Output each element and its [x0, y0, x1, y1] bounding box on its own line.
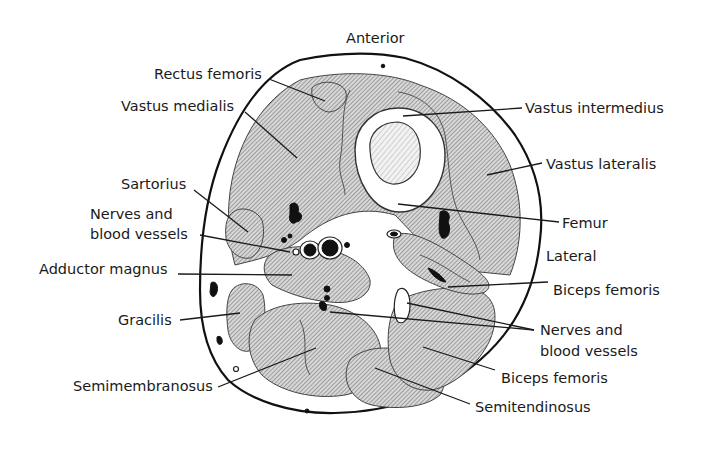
label-rectus-femoris: Rectus femoris: [154, 66, 262, 82]
label-femur: Femur: [562, 215, 608, 231]
label-nerves-vessels-right-line2: blood vessels: [540, 343, 638, 359]
saphenous-vein-icon: [210, 282, 218, 296]
label-gracilis: Gracilis: [118, 312, 172, 328]
sartorius-region: [226, 209, 264, 258]
label-sartorius: Sartorius: [121, 176, 186, 192]
femoral-artery-icon: [322, 240, 338, 256]
perforating-vessel-icon: [391, 232, 398, 236]
label-biceps-femoris-upper: Biceps femoris: [553, 282, 660, 298]
small-vessel-icon: [293, 249, 299, 255]
label-nerves-vessels-left-line2: blood vessels: [90, 226, 188, 242]
label-vastus-intermedius: Vastus intermedius: [525, 100, 664, 116]
label-semimembranosus: Semimembranosus: [73, 378, 213, 394]
label-nerves-vessels-right-line1: Nerves and: [540, 322, 623, 338]
small-vessel-icon: [288, 234, 292, 238]
thigh-cross-section-diagram: Anterior Lateral Rectus femoris Vastus m…: [0, 0, 701, 454]
label-vastus-lateralis: Vastus lateralis: [546, 156, 656, 172]
posterior-vessel-icon: [325, 296, 330, 301]
label-vastus-medialis: Vastus medialis: [121, 98, 234, 114]
small-vessel-icon: [282, 238, 287, 243]
subcutaneous-vein-icon: [234, 367, 239, 372]
small-vessel-icon: [345, 243, 350, 248]
orientation-lateral-label: Lateral: [546, 248, 596, 264]
femoral-vein-icon: [304, 244, 316, 256]
orientation-anterior-label: Anterior: [346, 30, 405, 46]
posterior-vessel-icon: [324, 286, 330, 292]
femur-marrow: [370, 122, 421, 184]
subcutaneous-vein-icon: [217, 336, 222, 344]
subcutaneous-vein-icon: [305, 409, 309, 413]
posterior-vessel-icon: [319, 301, 326, 310]
label-semitendinosus: Semitendinosus: [475, 399, 591, 415]
lateral-vessel-icon: [439, 211, 450, 239]
label-adductor-magnus: Adductor magnus: [39, 261, 168, 277]
label-nerves-vessels-left-line1: Nerves and: [90, 206, 173, 222]
label-biceps-femoris-lower: Biceps femoris: [501, 370, 608, 386]
subcutaneous-vein-icon: [381, 64, 385, 68]
